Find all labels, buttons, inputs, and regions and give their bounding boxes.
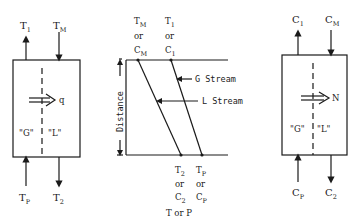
top-label-right: T1 or C1 xyxy=(165,16,176,58)
heat-exchanger-block: T1 TM TP T2 q "G" "L" xyxy=(13,20,80,206)
gas-phase-label: "G" xyxy=(19,128,34,138)
g-stream-label: G Stream xyxy=(195,74,236,84)
mass-exchanger-block: C1 CM CP C2 N "G" "L" xyxy=(282,14,347,201)
right-block-box xyxy=(282,55,347,155)
cp-label: CP xyxy=(292,187,305,201)
svg-text:CM: CM xyxy=(134,45,148,58)
svg-text:C2: C2 xyxy=(175,192,186,205)
svg-text:T2: T2 xyxy=(175,165,185,178)
liquid-phase-label: "L" xyxy=(317,124,331,134)
t2-label: T2 xyxy=(53,192,64,206)
svg-text:TM: TM xyxy=(134,16,147,29)
l-stream-profile-line xyxy=(138,60,181,155)
mass-flux-label: N xyxy=(332,93,340,103)
left-block-box xyxy=(13,60,80,157)
heat-flux-label: q xyxy=(59,95,65,105)
t1-label: T1 xyxy=(20,20,31,34)
bottom-label-left: T2 or C2 xyxy=(175,165,186,205)
countercurrent-diagram: T1 TM TP T2 q "G" "L" Distance G Stream … xyxy=(0,0,358,222)
svg-text:C1: C1 xyxy=(165,45,176,58)
svg-text:or: or xyxy=(175,179,185,189)
cm-label: CM xyxy=(325,14,340,28)
top-label-left: TM or CM xyxy=(134,16,148,58)
svg-text:TP: TP xyxy=(196,165,207,178)
distance-axis-label: Distance xyxy=(115,91,125,132)
bottom-label-right: TP or CP xyxy=(196,165,208,205)
liquid-phase-label: "L" xyxy=(48,128,62,138)
x-axis-label: T or P xyxy=(166,208,192,218)
svg-text:or: or xyxy=(134,31,144,41)
svg-text:or: or xyxy=(196,179,206,189)
svg-text:CP: CP xyxy=(196,192,208,205)
svg-text:T1: T1 xyxy=(165,16,175,29)
profile-chart: Distance G Stream L Stream TM or CM T1 o… xyxy=(115,16,243,218)
gas-phase-label: "G" xyxy=(290,124,305,134)
tp-label: TP xyxy=(19,192,31,206)
c1-label: C1 xyxy=(292,14,304,28)
tm-label: TM xyxy=(53,20,67,34)
mass-flux-double-arrow-icon xyxy=(301,92,329,104)
c2-label: C2 xyxy=(325,187,337,201)
svg-text:or: or xyxy=(165,31,175,41)
l-stream-label: L Stream xyxy=(202,96,243,106)
